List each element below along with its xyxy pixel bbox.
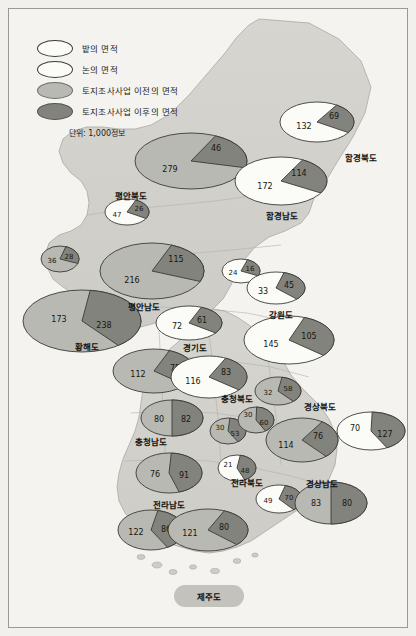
province-label-8: 경상북도 <box>304 400 337 412</box>
province-label-1: 함경북도 <box>345 151 378 163</box>
value-label-gyeonggi-mid-1: 83 <box>221 368 231 377</box>
value-label-jeonnam-right-0: 121 <box>182 529 197 538</box>
province-label-12: 전라남도 <box>153 498 186 510</box>
value-label-pyongannam-big-0: 216 <box>124 276 139 285</box>
value-label-small-30-53-0: 30 <box>216 424 225 432</box>
value-label-gyeonggi-mid-0: 116 <box>185 377 200 386</box>
province-label-0: 평안북도 <box>115 189 148 201</box>
value-label-gyeongbuk-right-1: 127 <box>377 430 392 439</box>
value-label-gangwon-big-0: 145 <box>263 340 278 349</box>
value-label-gyeongnam-small-0: 49 <box>264 497 273 505</box>
pie-chart-hamgyongbuk <box>277 99 357 145</box>
province-label-9: 충청남도 <box>135 435 168 447</box>
value-label-gyeongbuk-mid-1: 76 <box>313 432 323 441</box>
value-label-small-30-60-0: 30 <box>244 411 253 419</box>
value-label-gangwon-mid-0: 33 <box>258 287 268 296</box>
ellipse-swatch-icon <box>37 61 73 78</box>
value-label-gangwon-small-0: 24 <box>229 269 238 277</box>
value-label-chungnam-bot-0: 76 <box>150 470 160 479</box>
unit-note: 단위: 1,000정보 <box>69 127 125 138</box>
value-label-chungbuk-0: 32 <box>264 389 273 397</box>
pie-chart-chungnam-top <box>138 397 206 439</box>
value-label-chungnam-bot-1: 91 <box>179 471 189 480</box>
value-label-pyongannam-big-1: 115 <box>168 255 183 264</box>
value-label-jeonbuk-small-1: 48 <box>241 467 250 475</box>
value-label-hamgyongbuk-1: 69 <box>329 112 339 121</box>
value-label-small-30-60-1: 60 <box>260 419 269 427</box>
value-label-gyeongbuk-mid-0: 114 <box>278 441 293 450</box>
legend-label: 토지조사사업 이전의 면적 <box>82 84 178 96</box>
value-label-pyonganbuk-small-1: 26 <box>135 205 144 213</box>
value-label-jeonnam-right-1: 80 <box>219 523 229 532</box>
province-label-10: 전라북도 <box>231 476 264 488</box>
pie-chart-chungnam-bot <box>133 450 205 496</box>
legend-item-bat: 밭의 면적 <box>37 39 252 57</box>
screenshot-root: 밭의 면적 논의 면적 토지조사사업 이전의 면적 토지조사사업 이후의 면적 … <box>0 0 416 636</box>
value-label-gyeonggi-left-0: 112 <box>130 370 145 379</box>
value-label-chungbuk-1: 58 <box>284 385 293 393</box>
value-label-hwanghae-0: 173 <box>51 315 66 324</box>
value-label-hamgyongnam-0: 172 <box>257 182 272 191</box>
legend-label: 밭의 면적 <box>82 42 118 54</box>
ellipse-swatch-icon <box>37 40 73 57</box>
value-label-hwanghae-1: 238 <box>96 321 111 330</box>
ellipse-swatch-icon <box>37 82 73 99</box>
value-label-gyeonggi-top-1: 61 <box>197 316 207 325</box>
map-frame: 밭의 면적 논의 면적 토지조사사업 이전의 면적 토지조사사업 이후의 면적 … <box>8 8 408 628</box>
province-label-jeju: 제주도 <box>197 590 221 602</box>
value-label-gangwon-mid-1: 45 <box>284 281 294 290</box>
province-label-3: 평안남도 <box>128 300 161 312</box>
value-label-chungnam-top-1: 82 <box>181 415 191 424</box>
province-label-11: 경상남도 <box>306 477 339 489</box>
province-label-7: 충청북도 <box>221 392 254 404</box>
value-label-gangwon-big-1: 105 <box>301 332 316 341</box>
value-label-pyongannam-small-0: 36 <box>48 257 57 265</box>
pie-chart-gyeonggi-top <box>153 303 225 343</box>
legend-item-non: 논의 면적 <box>37 60 252 78</box>
value-label-hamgyongbuk-0: 132 <box>296 122 311 131</box>
value-label-pyonganbuk-big-1: 46 <box>211 144 221 153</box>
value-label-pyongannam-small-1: 28 <box>65 253 74 261</box>
pie-chart-hamgyongnam <box>232 154 330 208</box>
ellipse-swatch-icon <box>37 103 73 120</box>
pie-chart-gyeongbuk-right <box>334 409 408 453</box>
value-label-hamgyongnam-1: 114 <box>291 169 306 178</box>
province-label-2: 함경남도 <box>266 209 299 221</box>
legend: 밭의 면적 논의 면적 토지조사사업 이전의 면적 토지조사사업 이후의 면적 <box>37 39 252 123</box>
legend-label: 논의 면적 <box>82 63 118 75</box>
pie-chart-pyongannam-small <box>38 243 82 275</box>
value-label-gyeongnam-big-1: 80 <box>342 499 352 508</box>
value-label-jeonnam-left-0: 122 <box>128 528 143 537</box>
pie-chart-chungbuk <box>252 374 304 408</box>
pie-chart-small-30-60 <box>235 404 277 436</box>
legend-label: 토지조사사업 이후의 면적 <box>82 105 178 117</box>
pie-chart-gangwon-mid <box>244 269 308 307</box>
value-label-gyeongnam-big-0: 83 <box>311 499 321 508</box>
province-label-4: 황해도 <box>75 340 100 352</box>
value-label-pyonganbuk-big-0: 279 <box>162 165 177 174</box>
value-label-gyeongbuk-right-0: 70 <box>350 424 360 433</box>
value-label-pyonganbuk-small-0: 47 <box>113 211 122 219</box>
province-label-5: 강원도 <box>269 308 294 320</box>
value-label-gyeonggi-top-0: 72 <box>172 322 182 331</box>
value-label-chungnam-top-0: 80 <box>154 415 164 424</box>
legend-item-before: 토지조사사업 이전의 면적 <box>37 81 252 99</box>
value-label-jeonbuk-small-0: 21 <box>224 461 233 469</box>
pie-chart-gangwon-big <box>241 313 337 367</box>
pie-chart-jeonnam-right <box>165 506 251 554</box>
province-label-6: 경기도 <box>183 341 208 353</box>
legend-item-after: 토지조사사업 이후의 면적 <box>37 102 252 120</box>
